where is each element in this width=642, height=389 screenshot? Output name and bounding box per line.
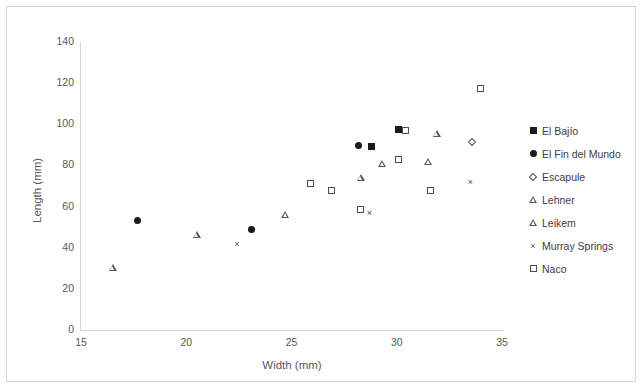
legend-item-label: El Bajío xyxy=(542,125,578,137)
data-point xyxy=(328,187,335,194)
data-point xyxy=(109,264,117,271)
x-tick-label: 35 xyxy=(482,336,522,348)
data-point xyxy=(368,143,375,150)
data-point xyxy=(193,231,201,238)
data-point xyxy=(357,174,365,181)
y-tick-label: 20 xyxy=(40,282,74,294)
y-tick-label: 60 xyxy=(40,200,74,212)
y-tick-label: 40 xyxy=(40,241,74,253)
data-point: × xyxy=(233,240,241,248)
legend-marker-open-square-icon xyxy=(526,262,540,276)
data-point: × xyxy=(365,209,373,217)
data-point xyxy=(357,206,364,213)
legend-marker-open-triangle-icon xyxy=(526,193,540,207)
data-point: × xyxy=(466,178,474,186)
y-tick-label: 80 xyxy=(40,158,74,170)
marker-open-diamond xyxy=(529,172,537,180)
y-axis-title: Length (mm) xyxy=(31,158,43,223)
legend-marker-filled-circle-icon xyxy=(526,147,540,161)
y-tick-label: 0 xyxy=(40,323,74,335)
data-point xyxy=(427,187,434,194)
y-tick-label: 100 xyxy=(40,117,74,129)
legend-item-escapule[interactable]: Escapule xyxy=(526,165,638,188)
legend-marker-open-diamond-icon xyxy=(526,170,540,184)
marker-filled-square xyxy=(530,127,537,134)
legend-item-leikem[interactable]: Leikem xyxy=(526,211,638,234)
legend-marker-filled-square-icon xyxy=(526,124,540,138)
y-tick-label: 140 xyxy=(40,35,74,47)
legend-item-murray-springs[interactable]: ×Murray Springs xyxy=(526,234,638,257)
chart-legend: El BajíoEl Fin del MundoEscapuleLehnerLe… xyxy=(526,119,638,280)
data-point xyxy=(134,217,141,224)
marker-cross: × xyxy=(529,242,537,250)
data-point xyxy=(395,156,402,163)
x-tick-label: 25 xyxy=(272,336,312,348)
legend-item-label: Murray Springs xyxy=(542,240,613,252)
y-tick-label: 120 xyxy=(40,76,74,88)
data-point xyxy=(433,130,441,137)
x-tick-label: 30 xyxy=(377,336,417,348)
marker-filled-circle xyxy=(530,150,537,157)
data-point xyxy=(378,160,386,167)
legend-marker-cross-icon: × xyxy=(526,239,540,253)
data-point xyxy=(355,142,362,149)
data-point xyxy=(424,158,432,165)
marker-open-triangle xyxy=(529,196,537,203)
x-tick-label: 15 xyxy=(61,336,101,348)
legend-item-naco[interactable]: Naco xyxy=(526,257,638,280)
legend-item-el-fin-del-mundo[interactable]: El Fin del Mundo xyxy=(526,142,638,165)
legend-item-label: El Fin del Mundo xyxy=(542,148,621,160)
marker-open-square xyxy=(530,265,537,272)
data-point xyxy=(402,127,409,134)
data-point xyxy=(281,211,289,218)
chart-frame: 020406080100120140 1520253035 Length (mm… xyxy=(6,6,636,382)
data-point xyxy=(467,138,475,146)
legend-item-label: Escapule xyxy=(542,171,585,183)
plot-area: ××× xyxy=(81,42,502,330)
legend-item-label: Lehner xyxy=(542,194,575,206)
legend-item-lehner[interactable]: Lehner xyxy=(526,188,638,211)
marker-open-triangle xyxy=(529,219,537,226)
data-point xyxy=(307,180,314,187)
legend-item-label: Leikem xyxy=(542,217,576,229)
x-axis-line xyxy=(80,330,503,331)
legend-marker-open-triangle-icon xyxy=(526,216,540,230)
legend-item-label: Naco xyxy=(542,263,567,275)
x-tick-label: 20 xyxy=(166,336,206,348)
data-point xyxy=(248,226,255,233)
x-axis-title: Width (mm) xyxy=(7,359,577,371)
legend-item-el-baj-o[interactable]: El Bajío xyxy=(526,119,638,142)
data-point xyxy=(477,85,484,92)
